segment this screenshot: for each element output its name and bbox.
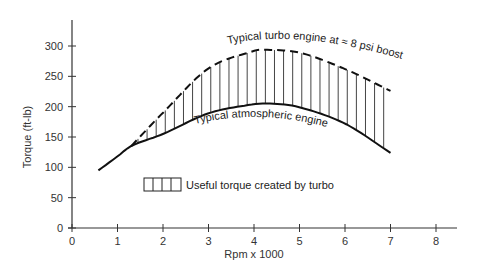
y-tick-label: 200 bbox=[45, 101, 63, 113]
x-axis-label: Rpm x 1000 bbox=[224, 248, 283, 260]
y-tick-label: 150 bbox=[45, 131, 63, 143]
y-tick-label: 50 bbox=[51, 192, 63, 204]
x-tick-label: 0 bbox=[69, 235, 75, 247]
x-tick-label: 5 bbox=[296, 235, 302, 247]
legend-label: Useful torque created by turbo bbox=[186, 179, 334, 191]
x-tick-label: 4 bbox=[251, 235, 257, 247]
y-ticks: 050100150200250300 bbox=[45, 40, 76, 234]
x-tick-label: 2 bbox=[160, 235, 166, 247]
x-tick-label: 3 bbox=[205, 235, 211, 247]
legend: Useful torque created by turbo bbox=[144, 178, 334, 191]
x-tick-label: 8 bbox=[433, 235, 439, 247]
y-tick-label: 100 bbox=[45, 161, 63, 173]
y-axis-label: Torque (ft-lb) bbox=[21, 106, 33, 168]
useful-torque-hatch bbox=[138, 50, 384, 149]
torque-chart: 050100150200250300 012345678 Torque (ft-… bbox=[0, 0, 484, 270]
turbo-curve-label: Typical turbo engine at ≈ 8 psi boost bbox=[226, 29, 405, 61]
y-tick-label: 250 bbox=[45, 70, 63, 82]
x-tick-label: 6 bbox=[342, 235, 348, 247]
x-tick-label: 7 bbox=[387, 235, 393, 247]
x-tick-label: 1 bbox=[114, 235, 120, 247]
y-tick-label: 0 bbox=[57, 222, 63, 234]
y-tick-label: 300 bbox=[45, 40, 63, 52]
